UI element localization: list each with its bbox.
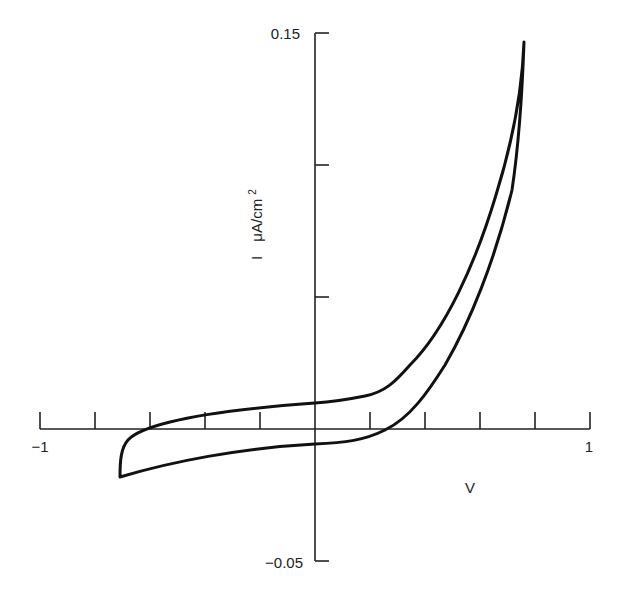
cv-loop-curve: [120, 42, 524, 477]
y-axis-title-superscript: 2: [247, 189, 258, 195]
cyclic-voltammogram-chart: 0.15 −0.05 −1 1 V I μA/cm 2: [0, 0, 620, 607]
y-axis-title-symbol: I: [248, 256, 265, 260]
svg-text:I μA/cm 2: I μA/cm 2: [247, 189, 265, 260]
x-tick-label-right: 1: [585, 438, 593, 455]
y-tick-label-top: 0.15: [271, 25, 300, 42]
x-axis-title: V: [465, 479, 475, 496]
x-tick-label-left: −1: [31, 438, 48, 455]
y-tick-label-bottom: −0.05: [265, 554, 303, 571]
y-axis: [315, 33, 329, 561]
y-axis-title: I μA/cm 2: [247, 189, 265, 260]
y-axis-title-units: μA/cm: [248, 199, 265, 242]
